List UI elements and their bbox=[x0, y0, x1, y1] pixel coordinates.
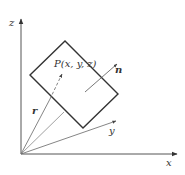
r-vector-label: r bbox=[32, 105, 38, 116]
y-axis-label: y bbox=[108, 125, 115, 136]
plane bbox=[30, 41, 118, 128]
r-vector-behind bbox=[50, 74, 62, 99]
x-axis-label: x bbox=[166, 157, 172, 168]
origin-to-plane-line bbox=[21, 112, 64, 154]
n-vector-label: n bbox=[115, 64, 122, 75]
y-axis bbox=[21, 121, 116, 154]
point-label: P(x, y, z) bbox=[53, 58, 97, 69]
z-axis-label: z bbox=[8, 17, 15, 28]
plane-normal-diagram: z x y P(x, y, z) r n bbox=[0, 0, 185, 175]
